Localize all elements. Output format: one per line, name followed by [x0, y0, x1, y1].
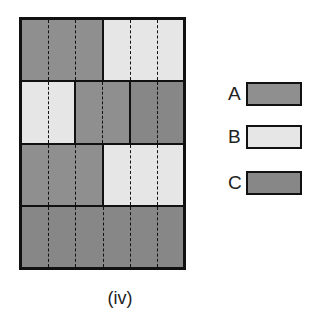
legend-label: C — [228, 172, 242, 194]
dashed-divider — [75, 145, 76, 205]
tile-c — [130, 81, 184, 143]
dashed-divider — [130, 145, 131, 205]
tile-c — [21, 206, 184, 268]
legend-swatch-b — [246, 125, 302, 149]
tiling-grid — [19, 17, 186, 270]
dashed-divider — [48, 145, 49, 205]
figure-caption: (iv) — [0, 288, 240, 309]
dashed-divider — [102, 82, 103, 142]
dashed-divider — [103, 207, 104, 267]
tile-b — [103, 19, 185, 81]
legend-swatch-a — [246, 82, 302, 106]
dashed-divider — [48, 207, 49, 267]
tile-a — [21, 144, 103, 206]
tile-a — [75, 81, 129, 143]
dashed-divider — [157, 20, 158, 80]
dashed-divider — [75, 20, 76, 80]
tile-b — [103, 144, 185, 206]
dashed-divider — [130, 207, 131, 267]
tile-b — [21, 81, 75, 143]
dashed-divider — [157, 82, 158, 142]
legend-swatch-c — [246, 171, 302, 195]
legend-label: A — [228, 83, 241, 105]
dashed-divider — [75, 207, 76, 267]
dashed-divider — [157, 207, 158, 267]
dashed-divider — [48, 82, 49, 142]
dashed-divider — [48, 20, 49, 80]
dashed-divider — [130, 20, 131, 80]
dashed-divider — [157, 145, 158, 205]
legend-label: B — [228, 126, 241, 148]
tile-a — [21, 19, 103, 81]
